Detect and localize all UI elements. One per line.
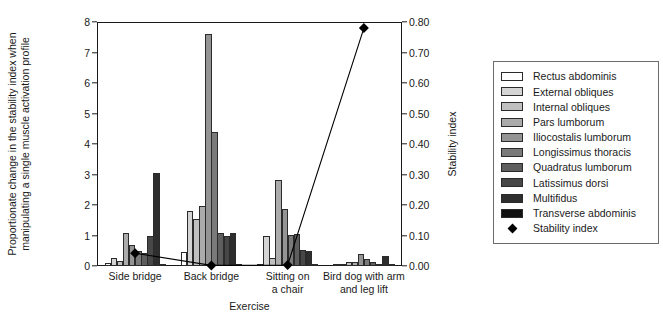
legend-row[interactable]: Longissimus thoracis bbox=[501, 145, 652, 160]
legend-label: Pars lumborum bbox=[533, 117, 604, 128]
legend-swatch bbox=[501, 178, 523, 187]
legend-row[interactable]: Quadratus lumborum bbox=[501, 160, 652, 175]
y-tick-left-mark bbox=[92, 174, 97, 175]
legend-label: Internal obliques bbox=[533, 102, 610, 113]
legend-diamond-icon bbox=[501, 224, 523, 233]
x-axis-title: Exercise bbox=[97, 300, 402, 312]
stability-index-line bbox=[135, 28, 364, 265]
legend-swatch bbox=[501, 118, 523, 127]
legend-label: Stability index bbox=[533, 223, 598, 234]
legend-row[interactable]: Rectus abdominis bbox=[501, 69, 652, 84]
figure-container: Proportionate change in the stability in… bbox=[0, 0, 663, 327]
legend-swatch bbox=[501, 102, 523, 111]
stability-index-layer: Stability index: 0.042Stability index: 0… bbox=[97, 22, 402, 266]
y-tick-left-mark bbox=[92, 82, 97, 83]
legend-label: Longissimus thoracis bbox=[533, 147, 631, 158]
plot-area: Stability index: 0.042Stability index: 0… bbox=[97, 22, 402, 266]
stability-index-marker: Stability index: 0.003 bbox=[283, 260, 293, 270]
stability-index-marker: Stability index: 0.002 bbox=[206, 260, 216, 270]
y-tick-left-mark bbox=[92, 21, 97, 22]
legend-swatch bbox=[501, 148, 523, 157]
y-tick-left-mark bbox=[92, 52, 97, 53]
legend-label: Rectus abdominis bbox=[533, 71, 616, 82]
y-tick-right-mark bbox=[402, 52, 407, 53]
y-tick-left-mark bbox=[92, 235, 97, 236]
stability-index-marker: Stability index: 0.78 bbox=[359, 23, 369, 33]
legend-swatch bbox=[501, 163, 523, 172]
y-tick-right-mark bbox=[402, 174, 407, 175]
legend-label: Transverse abdominis bbox=[533, 208, 636, 219]
legend-swatch bbox=[501, 72, 523, 81]
legend-swatch bbox=[501, 133, 523, 142]
legend-box: Rectus abdominisExternal obliquesInterna… bbox=[493, 61, 659, 244]
stability-index-marker: Stability index: 0.042 bbox=[130, 248, 140, 258]
legend-label: Quadratus lumborum bbox=[533, 162, 632, 173]
diamond-icon bbox=[507, 224, 517, 234]
legend-row[interactable]: External obliques bbox=[501, 84, 652, 99]
y-axis-right-title: Stability index bbox=[444, 22, 460, 266]
y-tick-left-mark bbox=[92, 143, 97, 144]
legend-row[interactable]: Transverse abdominis bbox=[501, 206, 652, 221]
y-tick-right-mark bbox=[402, 204, 407, 205]
legend-row[interactable]: Stability index bbox=[501, 221, 652, 236]
legend-label: External obliques bbox=[533, 87, 614, 98]
x-axis-group-label: Bird dog with arm and leg lift bbox=[308, 270, 420, 295]
y-tick-right-mark bbox=[402, 82, 407, 83]
legend-row[interactable]: Latissimus dorsi bbox=[501, 175, 652, 190]
y-tick-left-mark bbox=[92, 265, 97, 266]
y-tick-right-mark bbox=[402, 235, 407, 236]
legend-label: Multifidus bbox=[533, 193, 577, 204]
y-tick-right-mark bbox=[402, 143, 407, 144]
legend-swatch bbox=[501, 209, 523, 218]
y-tick-left-mark bbox=[92, 204, 97, 205]
legend-label: Latissimus dorsi bbox=[533, 178, 608, 189]
legend-swatch bbox=[501, 194, 523, 203]
legend-swatch bbox=[501, 87, 523, 96]
y-tick-left-mark bbox=[92, 113, 97, 114]
y-axis-left-title: Proportionate change in the stability in… bbox=[2, 22, 36, 266]
legend-label: Iliocostalis lumborum bbox=[533, 132, 631, 143]
y-tick-right-mark bbox=[402, 113, 407, 114]
legend-row[interactable]: Iliocostalis lumborum bbox=[501, 130, 652, 145]
legend-row[interactable]: Internal obliques bbox=[501, 99, 652, 114]
legend-row[interactable]: Pars lumborum bbox=[501, 115, 652, 130]
legend-row[interactable]: Multifidus bbox=[501, 191, 652, 206]
y-tick-right-mark bbox=[402, 21, 407, 22]
y-tick-right-mark bbox=[402, 265, 407, 266]
